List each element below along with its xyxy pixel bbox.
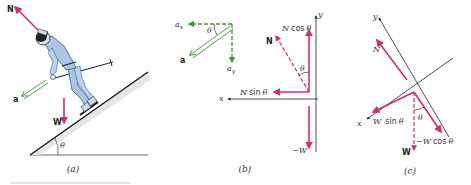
a-y-label: ay (227, 64, 236, 75)
angle-label-normal: θ (300, 64, 305, 73)
caption-a: (a) (67, 164, 80, 174)
angle-arc-c (414, 107, 424, 110)
y-axis-label-c: y (372, 12, 378, 21)
w-cos-arrow (414, 92, 441, 132)
skier-figure (36, 29, 98, 115)
acceleration-arrow-a-line2 (24, 83, 48, 99)
n-sin-label: Nsinθ (239, 88, 267, 97)
neg-weight-label: −W (292, 146, 308, 155)
panel-c: y x N Wsinθ −Wcosθ W θ (c) (357, 12, 453, 176)
a-x-label: ax (175, 20, 184, 30)
a-label-b: a (180, 56, 185, 65)
angle-label-c: θ (418, 113, 423, 122)
x-axis-c (367, 58, 453, 119)
normal-force-label-a: N (7, 5, 14, 14)
w-sin-label: Wsinθ (373, 117, 404, 126)
angle-label-accel: θ (207, 26, 212, 35)
normal-force-arrow (15, 7, 38, 30)
x-axis-label-c: x (357, 119, 362, 128)
angle-label-a: θ (60, 141, 65, 150)
slope-surface (30, 72, 148, 155)
acceleration-label-a: a (13, 95, 18, 104)
caption-c: (c) (404, 166, 417, 176)
weight-label-c: W (402, 148, 411, 157)
x-axis-label-b: x (219, 94, 224, 103)
normal-force-label-b: N (266, 37, 273, 46)
weight-label-a: W (53, 118, 62, 127)
w-cos-label: −Wcosθ (416, 137, 453, 146)
bottom-rule (10, 182, 130, 184)
physics-figure: θ N (0, 0, 471, 185)
angle-arc-accel (214, 24, 217, 35)
panel-b: θ ax ay a x y N Ncosθ Nsinθ θ −W (b) (175, 10, 323, 174)
n-cos-label: Ncosθ (281, 24, 311, 33)
caption-b: (b) (239, 164, 252, 174)
y-axis-label-b: y (317, 10, 323, 19)
panel-a: θ N (7, 5, 150, 174)
acceleration-arrow-a (22, 80, 46, 96)
w-sin-arrow (373, 92, 414, 112)
normal-force-arrow-c (377, 40, 407, 80)
a-vector-arrow-line2 (193, 29, 233, 58)
normal-force-label-c: N (372, 45, 381, 54)
